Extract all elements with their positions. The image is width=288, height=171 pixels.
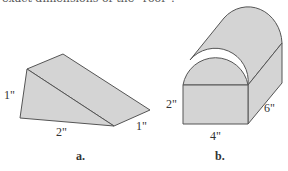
figure-a-wedge xyxy=(20,54,150,126)
label-a-height: 1" xyxy=(4,88,15,102)
front-rect-face xyxy=(183,85,248,124)
label-a-base: 2" xyxy=(56,125,67,139)
label-b-width: 4" xyxy=(210,129,221,143)
label-b-depth: 6" xyxy=(264,101,275,115)
figures-canvas: 1" 2" 1" a. 2" 4" 6" b. xyxy=(0,0,288,171)
figure-b-caption: b. xyxy=(215,149,225,163)
figure-a-caption: a. xyxy=(76,149,85,163)
label-a-depth: 1" xyxy=(136,119,147,133)
front-arch-face xyxy=(183,58,248,85)
label-b-height: 2" xyxy=(166,97,177,111)
